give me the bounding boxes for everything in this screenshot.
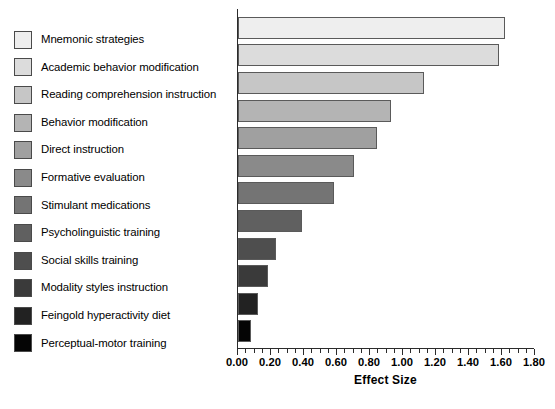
legend-swatch bbox=[14, 196, 32, 214]
x-tick-minor bbox=[476, 349, 477, 353]
legend-swatch bbox=[14, 252, 32, 270]
x-tick-label: 1.80 bbox=[523, 356, 545, 368]
x-tick-label: 0.80 bbox=[358, 356, 380, 368]
bar-row bbox=[238, 207, 535, 235]
legend-swatch bbox=[14, 86, 32, 104]
bar-row bbox=[238, 235, 535, 263]
x-tick-minor bbox=[452, 349, 453, 353]
x-tick-major bbox=[303, 349, 304, 355]
bar-row bbox=[238, 152, 535, 180]
x-tick-major bbox=[270, 349, 271, 355]
legend-swatch bbox=[14, 307, 32, 325]
bar bbox=[238, 293, 258, 315]
legend-label: Reading comprehension instruction bbox=[41, 89, 216, 100]
x-tick-minor bbox=[493, 349, 494, 353]
legend-item: Reading comprehension instruction bbox=[14, 81, 229, 109]
x-tick-minor bbox=[419, 349, 420, 353]
x-tick-major bbox=[369, 349, 370, 355]
bar bbox=[238, 44, 499, 66]
legend-item: Perceptual-motor training bbox=[14, 330, 229, 358]
legend-label: Stimulant medications bbox=[41, 200, 150, 211]
x-tick-major bbox=[237, 349, 238, 355]
legend-label: Mnemonic strategies bbox=[41, 34, 144, 45]
bar bbox=[238, 155, 354, 177]
x-tick-minor bbox=[328, 349, 329, 353]
x-tick-minor bbox=[518, 349, 519, 353]
legend-item: Social skills training bbox=[14, 247, 229, 275]
x-tick-minor bbox=[485, 349, 486, 353]
legend-swatch bbox=[14, 31, 32, 49]
chart-legend: Mnemonic strategiesAcademic behavior mod… bbox=[14, 26, 229, 357]
x-tick-minor bbox=[344, 349, 345, 353]
x-tick-minor bbox=[320, 349, 321, 353]
x-tick-label: 1.60 bbox=[490, 356, 512, 368]
bar bbox=[238, 210, 302, 232]
legend-item: Psycholinguistic training bbox=[14, 219, 229, 247]
x-tick-label: 0.60 bbox=[325, 356, 347, 368]
legend-label: Modality styles instruction bbox=[41, 282, 168, 293]
x-tick-label: 0.00 bbox=[226, 356, 248, 368]
x-tick-major bbox=[402, 349, 403, 355]
bar bbox=[238, 100, 391, 122]
legend-item: Stimulant medications bbox=[14, 192, 229, 220]
x-tick-minor bbox=[278, 349, 279, 353]
bar bbox=[238, 17, 505, 39]
x-tick-label: 0.20 bbox=[259, 356, 281, 368]
legend-label: Academic behavior modification bbox=[41, 62, 199, 73]
bar bbox=[238, 182, 334, 204]
x-tick-minor bbox=[377, 349, 378, 353]
x-tick-label: 1.40 bbox=[457, 356, 479, 368]
legend-swatch bbox=[14, 114, 32, 132]
bar-row bbox=[238, 124, 535, 152]
legend-item: Formative evaluation bbox=[14, 164, 229, 192]
bar bbox=[238, 238, 276, 260]
bar-row bbox=[238, 262, 535, 290]
x-tick-major bbox=[435, 349, 436, 355]
x-tick-minor bbox=[509, 349, 510, 353]
bar-row bbox=[238, 42, 535, 70]
bar bbox=[238, 265, 268, 287]
bar-row bbox=[238, 14, 535, 42]
x-tick-minor bbox=[254, 349, 255, 353]
legend-item: Direct instruction bbox=[14, 136, 229, 164]
legend-label: Behavior modification bbox=[41, 117, 148, 128]
x-tick-minor bbox=[427, 349, 428, 353]
plot-area bbox=[237, 9, 535, 348]
legend-label: Psycholinguistic training bbox=[41, 227, 160, 238]
x-tick-major bbox=[501, 349, 502, 355]
x-tick-minor bbox=[361, 349, 362, 353]
bar-row bbox=[238, 97, 535, 125]
x-tick-label: 1.20 bbox=[424, 356, 446, 368]
legend-label: Formative evaluation bbox=[41, 172, 145, 183]
legend-label: Social skills training bbox=[41, 255, 138, 266]
legend-swatch bbox=[14, 279, 32, 297]
legend-swatch bbox=[14, 334, 32, 352]
legend-swatch bbox=[14, 58, 32, 76]
x-axis-title: Effect Size bbox=[237, 373, 534, 387]
bar-row bbox=[238, 290, 535, 318]
bar-series bbox=[238, 14, 535, 348]
x-tick-minor bbox=[353, 349, 354, 353]
legend-label: Perceptual-motor training bbox=[41, 338, 166, 349]
x-tick-label: 1.00 bbox=[391, 356, 413, 368]
bar bbox=[238, 320, 251, 342]
x-tick-minor bbox=[410, 349, 411, 353]
x-tick-minor bbox=[262, 349, 263, 353]
legend-label: Feingold hyperactivity diet bbox=[41, 310, 170, 321]
x-tick-minor bbox=[443, 349, 444, 353]
x-tick-minor bbox=[394, 349, 395, 353]
x-tick-minor bbox=[287, 349, 288, 353]
bar-row bbox=[238, 318, 535, 346]
bar bbox=[238, 127, 377, 149]
legend-item: Academic behavior modification bbox=[14, 54, 229, 82]
x-tick-major bbox=[468, 349, 469, 355]
x-tick-label: 0.40 bbox=[292, 356, 314, 368]
x-tick-minor bbox=[386, 349, 387, 353]
legend-swatch bbox=[14, 141, 32, 159]
x-tick-minor bbox=[295, 349, 296, 353]
legend-item: Behavior modification bbox=[14, 109, 229, 137]
x-tick-minor bbox=[526, 349, 527, 353]
legend-swatch bbox=[14, 169, 32, 187]
legend-swatch bbox=[14, 224, 32, 242]
x-tick-minor bbox=[311, 349, 312, 353]
